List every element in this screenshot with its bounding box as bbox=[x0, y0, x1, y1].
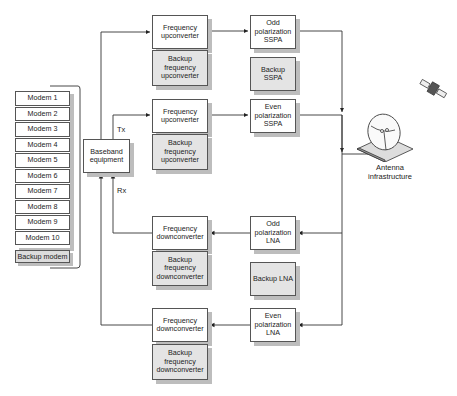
antenna-label: Antenna infrastructure bbox=[365, 164, 415, 181]
odd-polarization-lna: Odd polarization LNA bbox=[250, 216, 296, 250]
frequency-downconverter-2: Frequency downconverter bbox=[152, 308, 208, 342]
modem-5: Modem 5 bbox=[15, 153, 70, 168]
backup-lna: Backup LNA bbox=[250, 262, 296, 296]
backup-frequency-upconverter-1: Backup frequency upconverter bbox=[152, 50, 208, 86]
frequency-upconverter-2: Frequency upconverter bbox=[152, 99, 208, 133]
baseband-equipment: Baseband equipment bbox=[83, 139, 130, 173]
modem-7: Modem 7 bbox=[15, 184, 70, 199]
modem-3: Modem 3 bbox=[15, 122, 70, 137]
even-polarization-lna: Even polarization LNA bbox=[250, 308, 296, 342]
satellite-dish-icon bbox=[355, 112, 415, 162]
modem-9: Modem 9 bbox=[15, 215, 70, 230]
rx-label: Rx bbox=[117, 186, 126, 195]
even-polarization-sspa: Even polarization SSPA bbox=[250, 99, 296, 133]
frequency-downconverter-1: Frequency downconverter bbox=[152, 216, 208, 250]
backup-frequency-downconverter-1: Backup frequency downconverter bbox=[152, 251, 208, 286]
modem-2: Modem 2 bbox=[15, 107, 70, 122]
backup-modem: Backup modem bbox=[15, 250, 70, 263]
odd-polarization-sspa: Odd polarization SSPA bbox=[250, 15, 296, 49]
backup-sspa: Backup SSPA bbox=[250, 57, 296, 91]
backup-frequency-upconverter-2: Backup frequency upconverter bbox=[152, 134, 208, 170]
tx-label: Tx bbox=[117, 125, 125, 134]
backup-frequency-downconverter-2: Backup frequency downconverter bbox=[152, 344, 208, 380]
modem-4: Modem 4 bbox=[15, 138, 70, 153]
modem-10: Modem 10 bbox=[15, 231, 70, 246]
satellite-icon bbox=[418, 76, 448, 102]
modem-6: Modem 6 bbox=[15, 169, 70, 184]
modem-1: Modem 1 bbox=[15, 91, 70, 106]
modem-8: Modem 8 bbox=[15, 200, 70, 215]
frequency-upconverter-1: Frequency upconverter bbox=[152, 15, 208, 49]
